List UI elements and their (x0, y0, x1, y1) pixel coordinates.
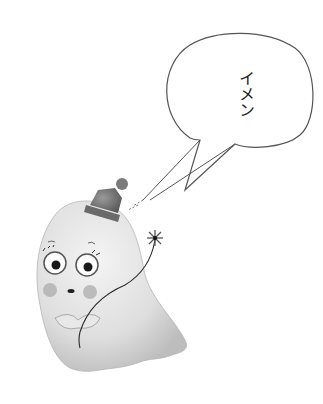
speech-bubble-text: イメン (214, 64, 254, 124)
flower-icon (147, 230, 163, 246)
illustration-canvas (0, 0, 323, 404)
ghost-figure (37, 178, 187, 371)
